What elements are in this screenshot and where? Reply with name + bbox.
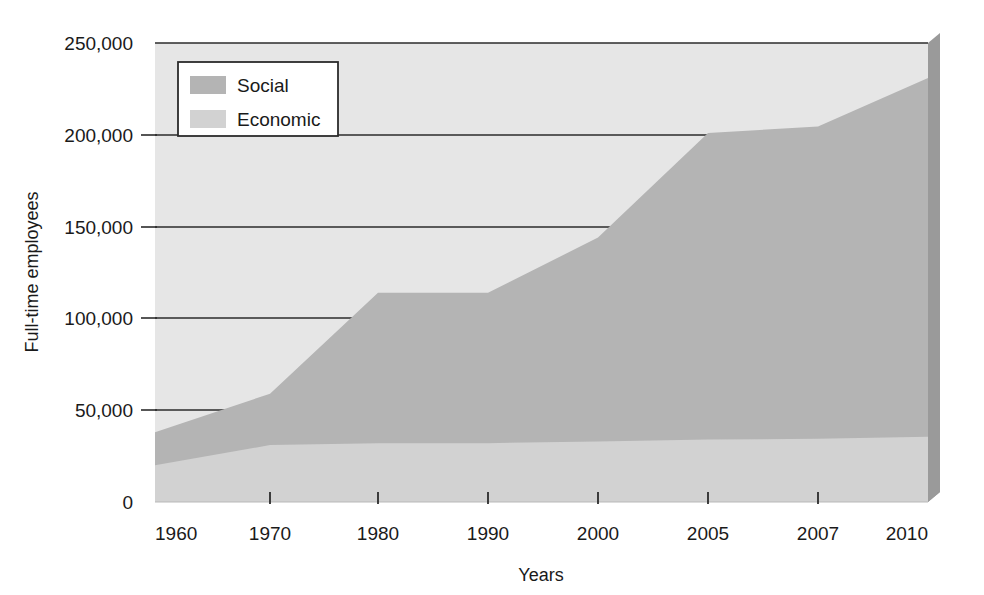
chart-canvas: 250,000 200,000 150,000 100,000 50,000 0… [0, 0, 984, 595]
y-tick-label-150000: 150,000 [64, 217, 133, 238]
x-tick-label-1960: 1960 [155, 523, 197, 544]
y-tick-label-250000: 250,000 [64, 33, 133, 54]
legend-swatch-social [190, 76, 226, 94]
y-tick-label-100000: 100,000 [64, 308, 133, 329]
legend: Social Economic [178, 62, 338, 136]
y-tick-label-0: 0 [122, 492, 133, 513]
y-axis-title: Full-time employees [22, 191, 42, 352]
y-tick-label-50000: 50,000 [75, 400, 133, 421]
x-tick-label-1970: 1970 [249, 523, 291, 544]
x-tick-labels-group: 19601970198019902000200520072010 [155, 523, 928, 544]
y-tick-labels-group: 250,000 200,000 150,000 100,000 50,000 0 [64, 33, 133, 513]
x-tick-label-2005: 2005 [687, 523, 729, 544]
y-tick-marks-group [141, 135, 157, 410]
area-chart: 250,000 200,000 150,000 100,000 50,000 0… [0, 0, 984, 595]
legend-label-social: Social [237, 75, 289, 96]
x-tick-label-2010: 2010 [886, 523, 928, 544]
plot-right-shadow [928, 33, 940, 502]
legend-label-economic: Economic [237, 109, 320, 130]
series-area-economic [155, 437, 928, 502]
y-tick-label-200000: 200,000 [64, 125, 133, 146]
x-tick-label-1990: 1990 [467, 523, 509, 544]
x-tick-label-1980: 1980 [357, 523, 399, 544]
x-axis-title: Years [518, 565, 563, 585]
x-tick-label-2000: 2000 [577, 523, 619, 544]
x-tick-label-2007: 2007 [797, 523, 839, 544]
legend-swatch-economic [190, 110, 226, 128]
